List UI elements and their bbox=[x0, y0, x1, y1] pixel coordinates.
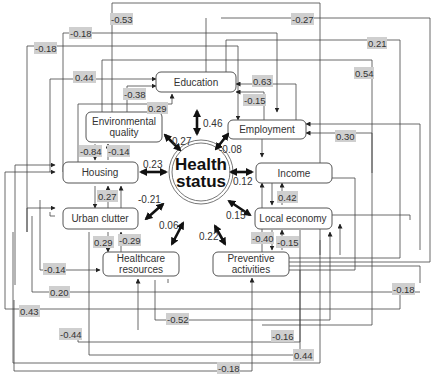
node-label: activities bbox=[232, 264, 270, 275]
coef-badge: 0.63 bbox=[252, 75, 273, 87]
coef-badge: -0.14 bbox=[107, 145, 130, 157]
coef-badge: -0.53 bbox=[110, 13, 133, 25]
svg-text:0.29: 0.29 bbox=[94, 237, 113, 248]
coef-badge: -0.16 bbox=[271, 330, 294, 342]
coef-badge: -0.29 bbox=[118, 234, 141, 246]
svg-text:0.44: 0.44 bbox=[294, 350, 313, 361]
coef-badge: 0.43 bbox=[19, 305, 40, 317]
svg-text:-0.44: -0.44 bbox=[60, 329, 82, 340]
node-label: Healthcare bbox=[117, 253, 166, 264]
svg-text:0.21: 0.21 bbox=[368, 38, 387, 49]
coef-badge: -0.15 bbox=[243, 94, 266, 106]
coef-badge: -0.18 bbox=[392, 283, 415, 295]
svg-text:0.44: 0.44 bbox=[75, 72, 94, 83]
node-label: Employment bbox=[239, 124, 295, 135]
coef-badge: 0.44 bbox=[73, 71, 96, 83]
svg-text:0.20: 0.20 bbox=[50, 287, 69, 298]
direct-effect-healthcare: 0.06 bbox=[159, 220, 179, 231]
svg-text:-0.18: -0.18 bbox=[218, 363, 240, 374]
node-label: Environmental bbox=[92, 116, 156, 127]
svg-text:-0.18: -0.18 bbox=[35, 43, 57, 54]
svg-text:-0.15: -0.15 bbox=[277, 237, 299, 248]
svg-text:-0.18: -0.18 bbox=[70, 28, 92, 39]
coef-badge: -0.40 bbox=[251, 232, 274, 244]
direct-effect-local-economy: 0.15 bbox=[226, 210, 246, 221]
node-label: Income bbox=[278, 168, 311, 179]
svg-text:-0.27: -0.27 bbox=[292, 14, 314, 25]
coef-badge: 0.29 bbox=[147, 102, 168, 114]
svg-text:0.43: 0.43 bbox=[20, 306, 39, 317]
path-diagram: Education Environmental quality Employme… bbox=[0, 0, 437, 383]
svg-text:-0.29: -0.29 bbox=[119, 235, 141, 246]
direct-effect-preventive: 0.22 bbox=[199, 231, 219, 242]
direct-effect-employment: -0.08 bbox=[219, 144, 242, 155]
svg-text:0.63: 0.63 bbox=[253, 76, 272, 87]
coef-badge: 0.54 bbox=[354, 67, 374, 79]
node-label: Housing bbox=[82, 167, 119, 178]
direct-effect-income: 0.12 bbox=[233, 176, 253, 187]
coef-badge: -0.27 bbox=[291, 13, 314, 25]
svg-text:-0.53: -0.53 bbox=[111, 14, 133, 25]
svg-text:0.42: 0.42 bbox=[278, 192, 297, 203]
coef-badge: -0.18 bbox=[69, 27, 92, 39]
coef-badge: 0.27 bbox=[97, 190, 118, 202]
coef-badge: -0.52 bbox=[166, 313, 189, 325]
svg-text:-0.40: -0.40 bbox=[252, 233, 274, 244]
coef-badge: 0.20 bbox=[49, 286, 70, 298]
svg-text:-0.14: -0.14 bbox=[44, 264, 66, 275]
node-label: Preventive bbox=[227, 253, 275, 264]
node-income: Income bbox=[256, 163, 332, 183]
coef-badge: 0.21 bbox=[367, 37, 387, 49]
node-local-economy: Local economy bbox=[255, 208, 332, 229]
node-label: Urban clutter bbox=[71, 213, 129, 224]
node-preventive-activities: Preventive activities bbox=[213, 252, 289, 276]
coef-badge: 0.29 bbox=[93, 236, 114, 248]
coef-badge: 0.42 bbox=[277, 191, 298, 203]
node-urban-clutter: Urban clutter bbox=[63, 208, 138, 229]
svg-text:-0.38: -0.38 bbox=[124, 89, 146, 100]
node-label: Local economy bbox=[259, 213, 326, 224]
svg-text:-0.16: -0.16 bbox=[272, 331, 294, 342]
node-employment: Employment bbox=[228, 120, 306, 139]
node-education: Education bbox=[156, 72, 236, 92]
health-status-label: status bbox=[176, 172, 226, 191]
node-healthcare-resources: Healthcare resources bbox=[103, 252, 179, 276]
svg-text:-0.18: -0.18 bbox=[393, 284, 415, 295]
node-housing: Housing bbox=[63, 162, 138, 183]
direct-effect-environmental: 0.27 bbox=[172, 136, 192, 147]
direct-effect-housing: 0.23 bbox=[143, 159, 163, 170]
svg-text:0.29: 0.29 bbox=[148, 103, 167, 114]
svg-text:-0.52: -0.52 bbox=[167, 314, 189, 325]
coef-badge: -0.18 bbox=[217, 362, 240, 374]
node-environmental-quality: Environmental quality bbox=[86, 112, 162, 142]
coef-badge: -0.84 bbox=[79, 145, 102, 157]
node-label: resources bbox=[119, 264, 163, 275]
coef-badge: 0.44 bbox=[293, 349, 314, 361]
coef-badge: -0.14 bbox=[43, 263, 66, 275]
node-label: Education bbox=[174, 77, 218, 88]
coef-badge: -0.44 bbox=[59, 328, 82, 340]
svg-text:0.27: 0.27 bbox=[98, 191, 117, 202]
coef-badge: -0.18 bbox=[34, 42, 57, 54]
coef-badge: 0.30 bbox=[335, 130, 356, 142]
svg-text:0.30: 0.30 bbox=[336, 131, 355, 142]
node-label: quality bbox=[110, 127, 139, 138]
direct-effect-urban-clutter: -0.21 bbox=[138, 194, 161, 205]
svg-text:-0.14: -0.14 bbox=[108, 146, 130, 157]
direct-effect-education: 0.46 bbox=[203, 118, 223, 129]
svg-text:0.54: 0.54 bbox=[355, 68, 374, 79]
svg-text:-0.15: -0.15 bbox=[244, 95, 266, 106]
svg-text:-0.84: -0.84 bbox=[80, 146, 102, 157]
coef-badge: -0.38 bbox=[123, 88, 146, 100]
coef-badge: -0.15 bbox=[276, 236, 299, 248]
